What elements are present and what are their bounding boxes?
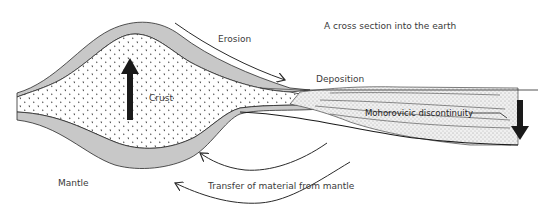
mantle-transfer-arrow-upper xyxy=(200,143,327,170)
erosion-label: Erosion xyxy=(218,34,251,44)
deposition-label: Deposition xyxy=(316,74,364,84)
diagram-title: A cross section into the earth xyxy=(324,21,456,31)
moho-label: Mohorovicic discontinuity xyxy=(365,108,473,118)
mantle-label: Mantle xyxy=(58,178,89,188)
transfer-label: Transfer of material from mantle xyxy=(208,181,354,191)
crust-label: Crust xyxy=(149,93,173,103)
